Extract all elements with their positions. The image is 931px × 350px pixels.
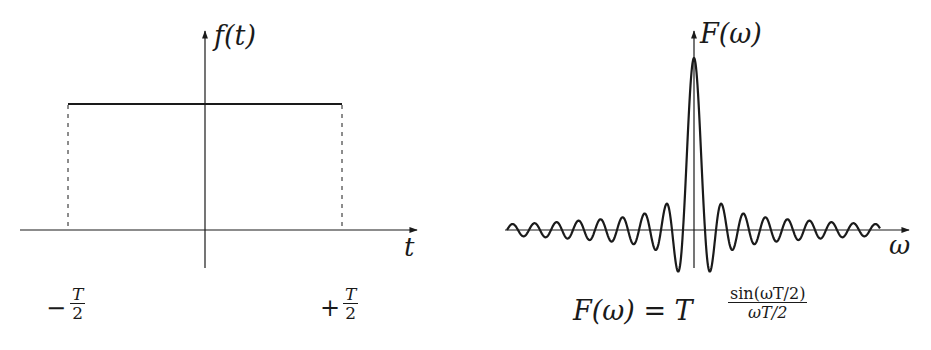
formula-denominator: ωT/2 bbox=[748, 303, 787, 322]
tick-left-numerator: T bbox=[70, 285, 85, 304]
tick-left-denominator: 2 bbox=[72, 304, 83, 323]
formula-numerator: sin(ωT/2) bbox=[728, 285, 807, 303]
formula-lhs: F(ω) = T bbox=[573, 295, 693, 326]
tick-minus-T-half: T 2 bbox=[70, 285, 85, 323]
left-plot bbox=[20, 31, 417, 268]
right-plot bbox=[505, 31, 909, 272]
F-of-omega-label: F(ω) bbox=[700, 18, 762, 49]
tick-plus-sign: + bbox=[320, 294, 340, 322]
formula-fraction: sin(ωT/2) ωT/2 bbox=[728, 285, 807, 322]
tick-right-numerator: T bbox=[343, 285, 358, 304]
omega-axis-label: ω bbox=[889, 230, 910, 260]
tick-right-denominator: 2 bbox=[345, 304, 356, 323]
tick-minus-sign: − bbox=[46, 294, 66, 322]
t-axis-label: t bbox=[404, 232, 414, 262]
f-of-t-label: f(t) bbox=[214, 20, 256, 51]
tick-plus-T-half: T 2 bbox=[343, 285, 358, 323]
